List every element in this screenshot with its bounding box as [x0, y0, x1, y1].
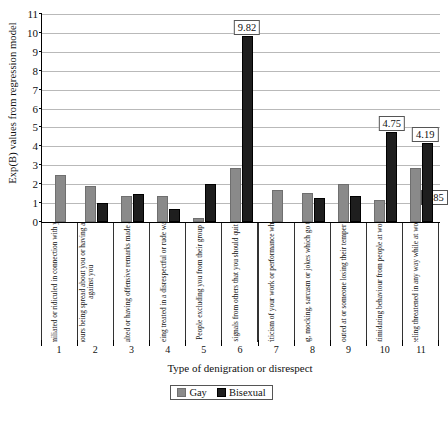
- category-label-cell: Hints or signals from others that you sh…: [221, 223, 258, 342]
- category-label-text: Being humiliated or ridiculed in connect…: [51, 226, 59, 338]
- category-number: 7: [258, 342, 294, 357]
- category-label-text: Gossip and rumours being spread about yo…: [79, 226, 96, 338]
- category-label-text: Intimidating behaviour from people at wo…: [376, 226, 384, 338]
- category-label-text: Being insulted or having offensive remar…: [123, 226, 131, 338]
- category-label-text: Being shouted at or someone losing their…: [340, 226, 348, 338]
- y-tick-label: 0: [18, 218, 38, 226]
- category-number: 3: [113, 342, 149, 357]
- bar-gay[interactable]: [55, 175, 66, 222]
- category-label-cell: Being insulted or having offensive remar…: [113, 223, 150, 342]
- bar-value-label: 4.75: [379, 116, 405, 131]
- bar-series-container: 9.824.752.854.19: [42, 14, 440, 222]
- category-label-text: Being treated in a disrespectful or rude…: [159, 226, 167, 338]
- bar-gay[interactable]: [121, 196, 132, 222]
- bar-gay[interactable]: [157, 196, 168, 222]
- category-label-text: Teasing, mocking, sarcasm or jokes which…: [304, 226, 312, 338]
- bar-group: 2.854.19: [404, 14, 440, 222]
- bar-bisexual[interactable]: 4.19: [422, 143, 433, 222]
- y-tick-label: 5: [18, 123, 38, 131]
- category-label-cell: Being shouted at or someone losing their…: [330, 223, 367, 342]
- bar-bisexual[interactable]: [133, 194, 144, 222]
- bar-group: [114, 14, 150, 222]
- category-label-cell: People excluding you from their group: [185, 223, 222, 342]
- category-number: 1: [41, 342, 77, 357]
- bar-group: [259, 14, 295, 222]
- bar-bisexual[interactable]: [314, 198, 325, 222]
- axes: 9.824.752.854.19: [41, 14, 440, 223]
- category-number: 8: [294, 342, 330, 357]
- category-label-cell: Being treated in a disrespectful or rude…: [149, 223, 186, 342]
- category-label-band: Being humiliated or ridiculed in connect…: [41, 222, 439, 342]
- bar-bisexual[interactable]: [169, 209, 180, 222]
- category-label-text: Feeling threatened in any way while at w…: [412, 226, 420, 338]
- bar-bisexual[interactable]: [205, 184, 216, 222]
- legend-box: GayBisexual: [170, 385, 272, 400]
- category-label-text: People excluding you from their group: [195, 226, 203, 338]
- bar-value-label: 4.19: [412, 127, 438, 142]
- y-tick-label: 6: [18, 105, 38, 113]
- y-tick-label: 1: [18, 199, 38, 207]
- category-number: 11: [403, 342, 439, 357]
- bar-bisexual[interactable]: [350, 196, 361, 222]
- y-tick-label: 7: [18, 86, 38, 94]
- category-number: 2: [77, 342, 113, 357]
- plot-area: Exp(B) values from regression model 0123…: [0, 0, 443, 240]
- y-tick-label: 10: [18, 29, 38, 37]
- category-number: 6: [222, 342, 258, 357]
- y-tick-label: 8: [18, 67, 38, 75]
- bar-group: [187, 14, 223, 222]
- legend: GayBisexual: [0, 385, 443, 400]
- bar-group: 9.82: [223, 14, 259, 222]
- legend-label: Bisexual: [229, 387, 266, 398]
- bar-group: [78, 14, 114, 222]
- category-number: 4: [150, 342, 186, 357]
- category-label-cell: Being humiliated or ridiculed in connect…: [41, 223, 78, 342]
- bar-group: [332, 14, 368, 222]
- legend-swatch-bi: [217, 388, 226, 397]
- category-label-cell: Feeling threatened in any way while at w…: [402, 223, 439, 342]
- figure-caption: [6, 412, 437, 424]
- bar-group: [42, 14, 78, 222]
- y-axis-ticks: 01234567891011: [18, 14, 38, 222]
- bar-group: [295, 14, 331, 222]
- legend-label: Gay: [189, 387, 207, 398]
- legend-swatch-gay: [177, 388, 186, 397]
- y-tick-label: 11: [18, 10, 38, 18]
- bar-gay[interactable]: [85, 186, 96, 222]
- legend-item[interactable]: Gay: [177, 387, 207, 398]
- bar-gay[interactable]: [230, 168, 241, 222]
- bar-bisexual[interactable]: [97, 203, 108, 222]
- bar-gay[interactable]: [272, 190, 283, 222]
- bar-group: [151, 14, 187, 222]
- bar-group: 4.75: [368, 14, 404, 222]
- y-tick-label: 3: [18, 161, 38, 169]
- category-label-cell: Intimidating behaviour from people at wo…: [366, 223, 403, 342]
- y-tick-label: 2: [18, 180, 38, 188]
- y-tick-label: 4: [18, 142, 38, 150]
- category-label-cell: Persistent criticism of your work or per…: [258, 223, 295, 342]
- bar-bisexual[interactable]: 4.75: [386, 132, 397, 222]
- y-tick-label: 9: [18, 48, 38, 56]
- category-label-text: Hints or signals from others that you sh…: [232, 226, 240, 338]
- category-number: 10: [367, 342, 403, 357]
- bar-gay[interactable]: [338, 184, 349, 222]
- category-label-text: Persistent criticism of your work or per…: [268, 226, 276, 338]
- x-axis-title: Type of denigration or disrespect: [41, 362, 439, 374]
- category-label-cell: Gossip and rumours being spread about yo…: [77, 223, 114, 342]
- bar-value-label: 9.82: [234, 20, 260, 35]
- category-number: 9: [331, 342, 367, 357]
- bar-gay[interactable]: 2.85: [410, 168, 421, 222]
- category-label-cell: Teasing, mocking, sarcasm or jokes which…: [294, 223, 331, 342]
- category-number-row: 1234567891011: [41, 342, 439, 357]
- legend-item[interactable]: Bisexual: [217, 387, 266, 398]
- bar-bisexual[interactable]: 9.82: [242, 36, 253, 222]
- category-number: 5: [186, 342, 222, 357]
- bar-gay[interactable]: [302, 193, 313, 222]
- bar-gay[interactable]: [374, 200, 385, 222]
